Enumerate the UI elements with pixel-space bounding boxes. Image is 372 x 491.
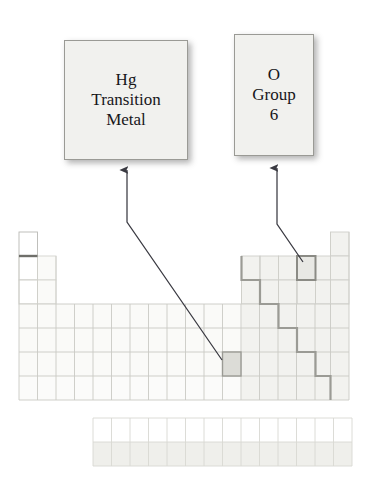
cell-g15-p3[interactable] (279, 280, 298, 304)
cell-g15-p2[interactable] (279, 256, 298, 280)
cell-g18-p2[interactable] (331, 256, 350, 280)
o-callout-line-3: 6 (270, 105, 279, 125)
cell-g13-p2[interactable] (242, 256, 261, 280)
cell-g18-p1[interactable] (331, 232, 350, 256)
cell-g14-p2[interactable] (260, 256, 279, 280)
o-callout-line-1: O (268, 65, 280, 85)
oxygen-cell[interactable] (297, 256, 316, 280)
figure-canvas: Hg Transition Metal O Group 6 (0, 0, 372, 491)
oxygen-callout[interactable]: O Group 6 (234, 34, 314, 156)
cell-g13-p3[interactable] (242, 280, 261, 304)
cell-g17-p2[interactable] (316, 256, 331, 280)
hg-callout-line-1: Hg (116, 70, 137, 90)
o-callout-line-2: Group (252, 85, 295, 105)
o-callout-arrow (277, 168, 303, 262)
cell-g18-p3[interactable] (331, 280, 350, 304)
cell-g1-p3[interactable] (19, 280, 38, 304)
hg-callout[interactable]: Hg Transition Metal (64, 40, 188, 160)
hg-callout-line-3: Metal (106, 110, 146, 130)
mercury-cell[interactable] (223, 352, 242, 376)
hg-callout-line-2: Transition (91, 90, 160, 110)
cell-g16-p3[interactable] (297, 280, 316, 304)
cell-g17-p3[interactable] (316, 280, 331, 304)
lanthanide-actinide-block (93, 418, 352, 466)
cell-g1-p1[interactable] (19, 232, 38, 256)
cell-g2-p3[interactable] (38, 280, 57, 304)
cell-g2-p2[interactable] (38, 256, 57, 280)
cell-g1-p2[interactable] (19, 256, 38, 280)
cell-g14-p3[interactable] (260, 280, 279, 304)
